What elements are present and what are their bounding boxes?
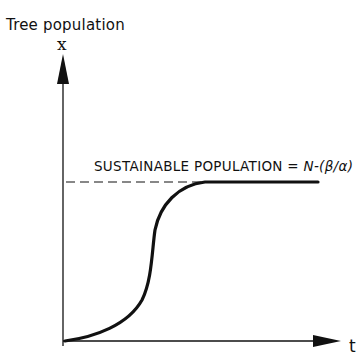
logistic-curve bbox=[65, 182, 318, 341]
y-axis-arrow-icon bbox=[57, 54, 69, 84]
logistic-growth-diagram bbox=[0, 0, 363, 358]
x-axis-arrow-icon bbox=[313, 335, 341, 347]
